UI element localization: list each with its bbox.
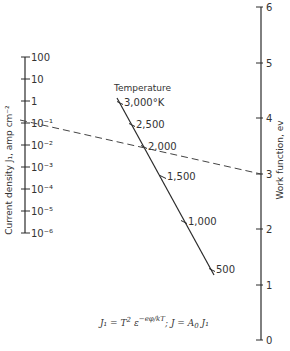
tick-label: 10⁻⁵: [31, 206, 53, 217]
tick-label: 10: [31, 74, 44, 85]
tick-label: 3: [266, 169, 272, 180]
tick-label: 500: [216, 264, 235, 275]
formula: J₁ = T2ε−eφ/kT; J = A0 J₁: [98, 315, 209, 330]
work-function-axis-label: Work function, ev: [275, 120, 285, 200]
tick-label: 1: [266, 280, 272, 291]
current-density-axis-label: Current density J₁, amp cm⁻²: [4, 105, 14, 235]
tick-label: 10⁻³: [31, 162, 53, 173]
nomogram: 10010110⁻¹10⁻²10⁻³10⁻⁴10⁻⁵10⁻⁶ Current d…: [0, 0, 290, 351]
tick-label: 10⁻⁴: [31, 184, 53, 195]
tick-label: 4: [266, 113, 272, 124]
tick-label: 1,500: [167, 171, 196, 182]
tick-label: 1,000: [188, 216, 217, 227]
tick-label: 100: [31, 52, 50, 63]
tick-label: 1: [31, 96, 37, 107]
tick-label: 5: [266, 58, 272, 69]
tick-label: 0: [266, 335, 272, 346]
tick-label: 10⁻⁶: [31, 228, 53, 239]
tick-label: 3,000°K: [124, 97, 165, 108]
tick-label: 10⁻²: [31, 140, 53, 151]
tick-label: 6: [266, 2, 272, 13]
tick-label: 2,000: [148, 141, 177, 152]
temperature-label: Temperature: [113, 83, 171, 93]
tick-label: 2: [266, 224, 272, 235]
current-density-axis: 10010110⁻¹10⁻²10⁻³10⁻⁴10⁻⁵10⁻⁶ Current d…: [4, 52, 53, 239]
temperature-scale: 3,000°K2,5002,0001,5001,000500 Temperatu…: [113, 83, 235, 275]
tick-label: 2,500: [136, 119, 165, 130]
